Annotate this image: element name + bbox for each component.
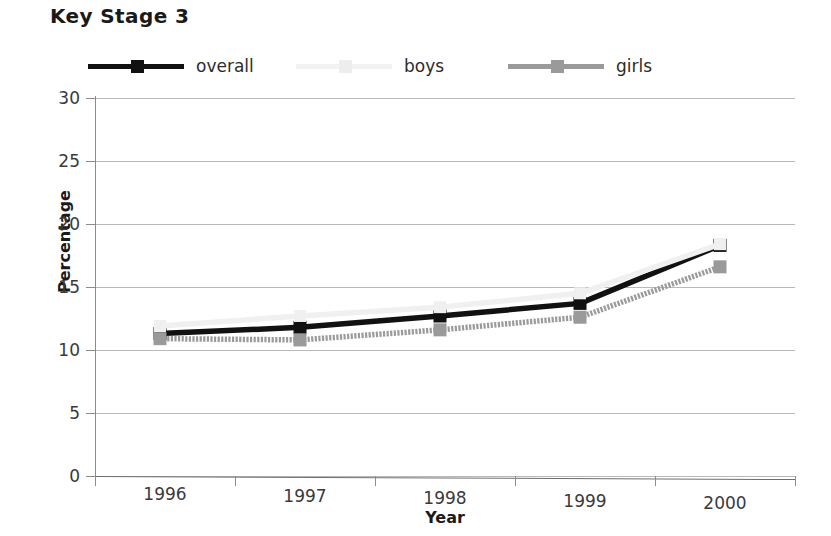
- gridline-30: [95, 98, 795, 99]
- y-tick-label-5: 5: [6, 403, 80, 423]
- x-tick-label-1999: 1999: [515, 491, 655, 511]
- y-tick-label-30: 30: [6, 88, 80, 108]
- y-tick-label-0: 0: [6, 466, 80, 486]
- legend-swatch-girls-icon: [508, 56, 604, 76]
- y-tick-label-20: 20: [6, 214, 80, 234]
- gridline-10: [95, 350, 795, 351]
- legend-label-girls: girls: [616, 56, 652, 76]
- legend-item-girls[interactable]: girls: [508, 52, 652, 80]
- y-tick-mark-15: [86, 287, 95, 288]
- y-tick-mark-10: [86, 350, 95, 351]
- chart-legend: overall boys girls: [88, 52, 688, 80]
- y-tick-mark-0: [86, 476, 95, 477]
- legend-item-overall[interactable]: overall: [88, 52, 254, 80]
- x-tick-mark-4: [655, 476, 656, 486]
- legend-item-boys[interactable]: boys: [296, 52, 444, 80]
- x-tick-mark-3: [515, 476, 516, 486]
- legend-label-overall: overall: [196, 56, 254, 76]
- legend-label-boys: boys: [404, 56, 444, 76]
- x-tick-label-1998: 1998: [375, 488, 515, 508]
- chart-figure: Key Stage 3 overall boys girls Percentag…: [0, 0, 831, 536]
- y-tick-mark-20: [86, 224, 95, 225]
- y-tick-label-10: 10: [6, 340, 80, 360]
- y-axis-tick-labels: 051015202530: [0, 0, 80, 536]
- x-tick-label-1997: 1997: [235, 486, 375, 506]
- plot-area: [95, 98, 795, 476]
- y-tick-mark-25: [86, 161, 95, 162]
- x-tick-mark-5: [795, 476, 796, 486]
- gridline-20: [95, 224, 795, 225]
- x-tick-label-2000: 2000: [655, 493, 795, 513]
- y-axis-line: [95, 96, 96, 478]
- legend-swatch-overall-icon: [88, 56, 184, 76]
- gridline-15: [95, 287, 795, 288]
- y-tick-mark-5: [86, 413, 95, 414]
- legend-swatch-boys-icon: [296, 56, 392, 76]
- y-tick-mark-30: [86, 98, 95, 99]
- x-tick-mark-2: [375, 476, 376, 486]
- gridline-25: [95, 161, 795, 162]
- gridline-5: [95, 413, 795, 414]
- x-tick-mark-1: [235, 476, 236, 486]
- y-tick-label-15: 15: [6, 277, 80, 297]
- y-tick-label-25: 25: [6, 151, 80, 171]
- x-tick-label-1996: 1996: [95, 484, 235, 504]
